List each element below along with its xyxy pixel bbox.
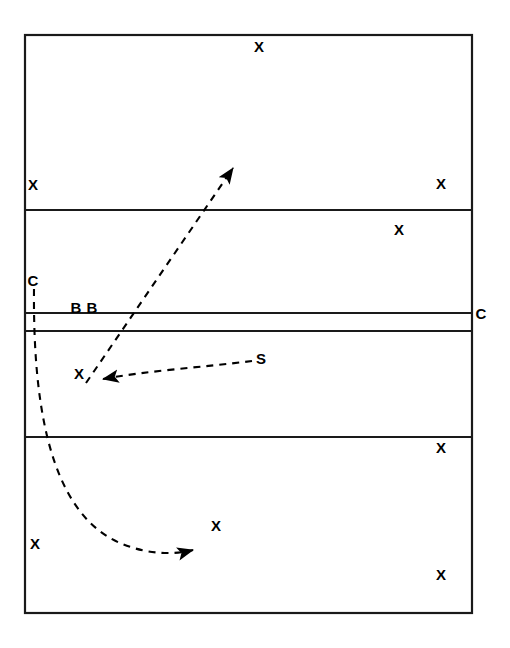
marker-x-near-back-left: X — [30, 536, 40, 551]
marker-x-far-back-left: X — [28, 177, 38, 192]
volleyball-court-diagram: X X X X C B B C X S X X X X — [0, 0, 510, 648]
marker-x-near-front-left: X — [74, 366, 84, 381]
marker-b-left: B — [71, 300, 82, 315]
marker-x-near-back-right-top: X — [436, 440, 446, 455]
marker-s-setter: S — [256, 351, 266, 366]
court-svg — [0, 0, 510, 648]
marker-x-far-front-right: X — [394, 222, 404, 237]
c-movement-arrow — [34, 289, 193, 553]
court-boundary — [25, 35, 472, 613]
marker-c-right: C — [476, 306, 487, 321]
marker-x-far-back-right: X — [436, 176, 446, 191]
marker-b-right: B — [87, 300, 98, 315]
set-arrow — [103, 361, 252, 379]
marker-x-near-back-center: X — [211, 518, 221, 533]
marker-x-far-back-center: X — [254, 39, 264, 54]
attack-arrow — [86, 168, 233, 383]
marker-x-near-back-right-bottom: X — [436, 567, 446, 582]
marker-c-left: C — [28, 273, 39, 288]
